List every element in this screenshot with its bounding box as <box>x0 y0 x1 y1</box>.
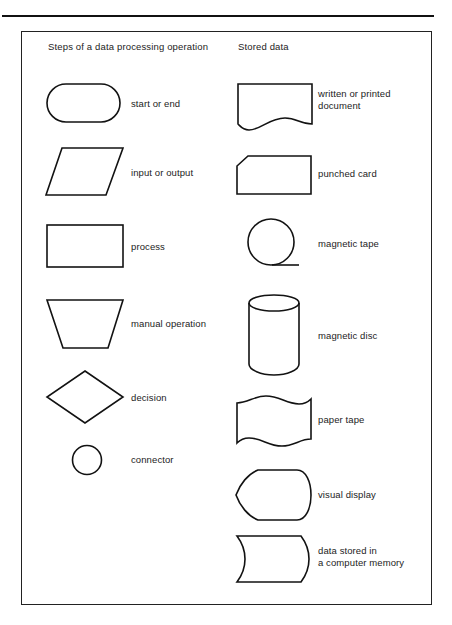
right-item-label-document: written or printed document <box>318 88 391 111</box>
right-item-label-punched-card: punched card <box>318 168 377 180</box>
cylinder-shape-icon <box>245 292 305 378</box>
left-item-label-start-or-end: start or end <box>131 98 180 110</box>
punched-card-shape-icon <box>234 153 314 197</box>
circle-shape-icon <box>70 443 104 477</box>
right-item-label-visual-display: visual display <box>318 489 376 501</box>
left-item-label-connector: connector <box>131 454 174 466</box>
right-item-label-magnetic-tape: magnetic tape <box>318 238 379 250</box>
right-column-header: Stored data <box>238 41 289 52</box>
paper-tape-shape-icon <box>234 394 314 448</box>
left-item-label-input-or-output: input or output <box>131 167 193 179</box>
magnetic-tape-shape-icon <box>245 216 303 270</box>
diamond-shape-icon <box>45 368 127 426</box>
rectangle-shape-icon <box>45 223 127 271</box>
right-item-label-stored-memory: data stored in a computer memory <box>318 545 404 568</box>
right-item-label-paper-tape: paper tape <box>318 414 364 426</box>
parallelogram-shape-icon <box>44 145 126 199</box>
left-item-label-decision: decision <box>131 392 167 404</box>
top-divider-rule <box>2 15 434 17</box>
flowchart-symbol-legend: Steps of a data processing operation Sto… <box>0 0 452 625</box>
left-item-label-process: process <box>131 241 165 253</box>
stadium-shape-icon <box>46 82 124 126</box>
left-item-label-manual-operation: manual operation <box>131 318 206 330</box>
trapezoid-shape-icon <box>45 297 127 353</box>
visual-display-shape-icon <box>234 467 314 523</box>
left-column-header: Steps of a data processing operation <box>48 41 208 52</box>
document-shape-icon <box>235 81 315 135</box>
right-item-label-magnetic-disc: magnetic disc <box>318 330 377 342</box>
stored-memory-shape-icon <box>234 533 314 585</box>
